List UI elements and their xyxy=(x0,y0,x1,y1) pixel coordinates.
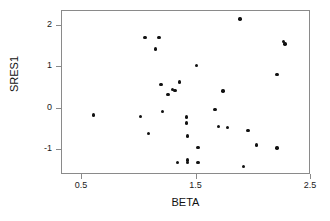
y-axis-tick xyxy=(56,25,61,26)
y-axis-tick-label: -1 xyxy=(12,143,52,153)
scatter-plot-figure: -10120.51.52.5 BETA SRES1 xyxy=(0,0,330,221)
x-axis-tick-label: 0.5 xyxy=(61,180,101,190)
y-axis-tick-label: 2 xyxy=(12,19,52,29)
y-axis-tick xyxy=(56,66,61,67)
y-axis-tick xyxy=(56,108,61,109)
x-axis-tick xyxy=(81,174,82,179)
x-axis-title: BETA xyxy=(61,196,310,208)
x-axis-tick-label: 2.5 xyxy=(290,180,330,190)
x-axis-tick xyxy=(310,174,311,179)
x-axis-tick xyxy=(196,174,197,179)
y-axis-tick xyxy=(56,149,61,150)
y-axis-title: SRES1 xyxy=(8,39,20,109)
x-axis-tick-label: 1.5 xyxy=(176,180,216,190)
plot-area-frame xyxy=(61,10,310,174)
